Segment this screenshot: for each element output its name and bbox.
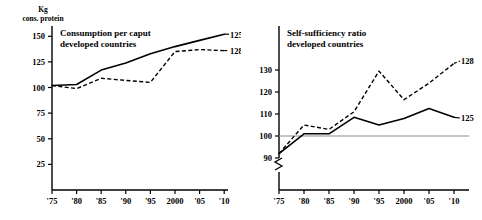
chart-title-line2: developed countries — [287, 39, 364, 49]
y-axis-title-line2: cons. protein — [22, 14, 64, 23]
x-tick-2000: 2000 — [167, 196, 184, 206]
x-tick-1990: '90 — [349, 196, 360, 206]
chart-title-line1: Self-sufficiency ratio — [287, 28, 367, 38]
consumption-chart-svg: Kg cons. protein Consumption per caput d… — [0, 0, 241, 220]
y-tick-100: 100 — [259, 131, 272, 141]
leader-dashed-128 — [454, 61, 460, 63]
x-tick-1975: '75 — [47, 196, 58, 206]
x-tick-2000: 2000 — [396, 196, 413, 206]
self-sufficiency-chart-svg: Self-sufficiency ratio developed countri… — [241, 0, 482, 220]
y-tick-50: 50 — [37, 134, 46, 144]
x-tick-1995: '95 — [145, 196, 156, 206]
chart-panel-consumption: Kg cons. protein Consumption per caput d… — [0, 0, 241, 220]
y-tick-130: 130 — [259, 65, 272, 75]
series-end-label-125: 125 — [230, 30, 241, 40]
y-tick-125: 125 — [32, 57, 45, 67]
leader-solid-125 — [454, 117, 460, 118]
chart-panel-self-sufficiency: Self-sufficiency ratio developed countri… — [241, 0, 482, 220]
x-tick-1985: '85 — [324, 196, 335, 206]
x-tick-1980: '80 — [71, 196, 82, 206]
x-axis-ticks: '75 '80 '85 '90 '95 2000 '05 '10 — [47, 190, 230, 206]
y-tick-110: 110 — [260, 109, 272, 119]
x-tick-1975: '75 — [274, 196, 285, 206]
chart-title-line1: Consumption per caput — [60, 28, 151, 38]
series-end-label-128: 128 — [461, 56, 474, 66]
y-axis-break-icon — [275, 158, 282, 170]
y-tick-120: 120 — [259, 87, 272, 97]
x-tick-2005: '05 — [424, 196, 435, 206]
series-solid-125 — [279, 109, 454, 154]
y-tick-75: 75 — [37, 108, 46, 118]
x-tick-1980: '80 — [299, 196, 310, 206]
y-axis-ticks: 90 100 110 120 130 — [259, 65, 279, 163]
chart-title-line2: developed countries — [60, 39, 137, 49]
series-end-label-125: 125 — [461, 113, 474, 123]
x-tick-1985: '85 — [96, 196, 107, 206]
x-tick-2010: '10 — [219, 196, 230, 206]
y-tick-25: 25 — [37, 159, 46, 169]
figure-two-line-charts: Kg cons. protein Consumption per caput d… — [0, 0, 482, 220]
y-tick-150: 150 — [32, 31, 45, 41]
y-tick-90: 90 — [264, 153, 273, 163]
y-axis-title-line1: Kg — [38, 5, 48, 14]
series-dashed-128 — [52, 50, 224, 89]
y-tick-100: 100 — [32, 83, 45, 93]
x-tick-2010: '10 — [449, 196, 460, 206]
y-axis-ticks: 25 50 75 100 125 150 — [32, 31, 52, 169]
x-tick-1995: '95 — [374, 196, 385, 206]
x-tick-1990: '90 — [120, 196, 131, 206]
series-end-label-128: 128 — [230, 46, 241, 56]
x-axis-ticks: '75 '80 '85 '90 '95 2000 '05 '10 — [274, 190, 460, 206]
x-tick-2005: '05 — [194, 196, 205, 206]
